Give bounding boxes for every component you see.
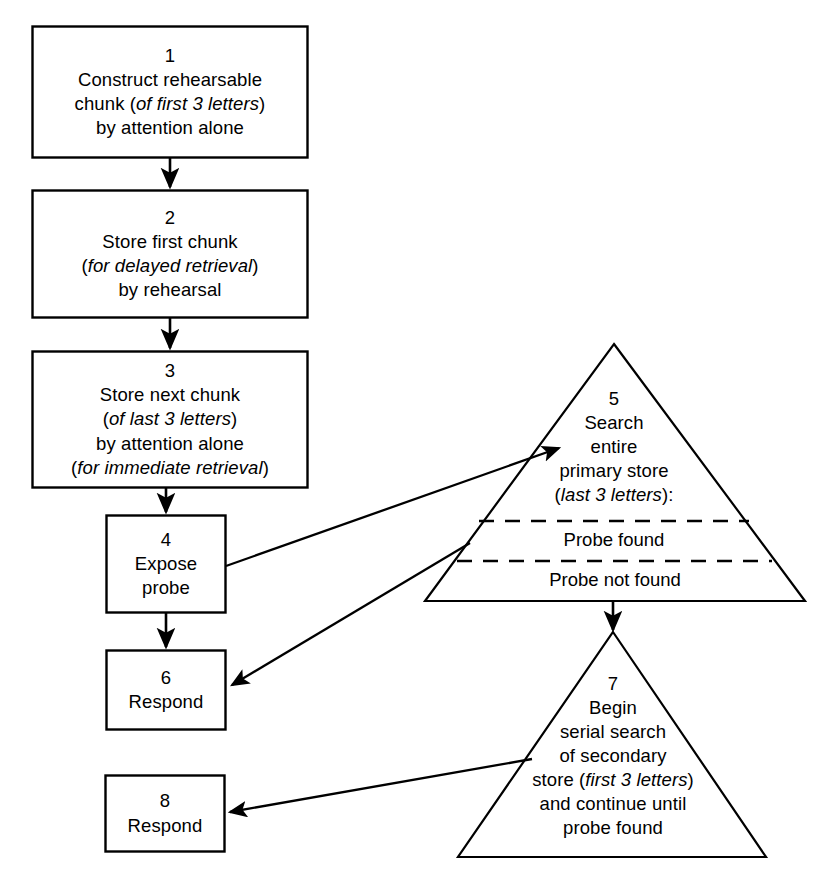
diagram-canvas	[0, 0, 818, 886]
node-8-box	[106, 776, 225, 852]
edge-7-to-8-arrow	[230, 759, 532, 812]
node-2-box	[33, 191, 308, 318]
node-5-outcome-found: Probe found	[474, 529, 754, 551]
node-3-box	[33, 352, 308, 488]
edge-5-found-to-6-arrow	[232, 543, 470, 685]
node-5-outcome-not-found: Probe not found	[455, 569, 775, 591]
flowchart-diagram: 1 Construct rehearsable chunk (of first …	[0, 0, 818, 886]
node-1-box	[33, 27, 308, 158]
node-5-triangle	[425, 344, 805, 601]
node-4-box	[107, 516, 226, 613]
node-6-box	[107, 651, 226, 730]
node-7-triangle	[458, 632, 766, 857]
